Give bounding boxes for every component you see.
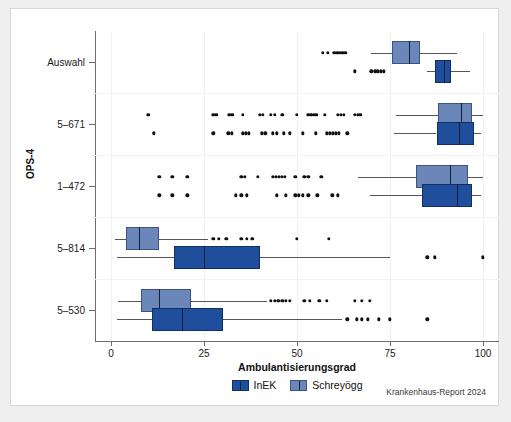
outlier-point bbox=[146, 113, 149, 116]
outlier-point bbox=[315, 113, 318, 116]
credit-text: Krankenhaus-Report 2024 bbox=[386, 387, 486, 397]
box-iqr bbox=[392, 41, 420, 64]
legend-label: Schreyögg bbox=[312, 379, 362, 391]
whisker-low bbox=[370, 195, 422, 196]
outlier-point bbox=[382, 69, 385, 72]
outlier-point bbox=[215, 113, 218, 116]
outlier-point bbox=[366, 317, 369, 320]
outlier-point bbox=[264, 131, 267, 134]
outlier-point bbox=[353, 69, 356, 72]
whisker-high bbox=[260, 257, 390, 258]
whisker-low bbox=[394, 133, 437, 134]
outlier-point bbox=[360, 299, 363, 302]
y-tick bbox=[89, 124, 95, 125]
outlier-point bbox=[303, 299, 306, 302]
outlier-point bbox=[306, 193, 309, 196]
grid-line bbox=[483, 31, 484, 341]
outlier-point bbox=[316, 193, 319, 196]
outlier-point bbox=[301, 193, 304, 196]
outlier-point bbox=[251, 237, 254, 240]
whisker-high bbox=[451, 71, 470, 72]
outlier-point bbox=[295, 113, 298, 116]
outlier-point bbox=[241, 113, 244, 116]
box-iqr bbox=[152, 308, 223, 331]
box-iqr bbox=[437, 122, 474, 145]
legend-swatch-icon bbox=[232, 380, 249, 391]
outlier-point bbox=[318, 299, 321, 302]
outlier-point bbox=[336, 193, 339, 196]
median-line bbox=[139, 227, 140, 250]
outlier-point bbox=[314, 131, 317, 134]
outlier-point bbox=[283, 175, 286, 178]
whisker-high bbox=[420, 53, 457, 54]
outlier-point bbox=[261, 113, 264, 116]
median-line bbox=[204, 246, 205, 269]
x-tick bbox=[297, 341, 298, 346]
outlier-point bbox=[433, 255, 436, 258]
whisker-low bbox=[118, 301, 140, 302]
outlier-point bbox=[368, 299, 371, 302]
median-line bbox=[182, 308, 183, 331]
outlier-point bbox=[280, 113, 283, 116]
legend-label: InEK bbox=[254, 379, 277, 391]
outlier-point bbox=[337, 131, 340, 134]
whisker-high bbox=[468, 177, 483, 178]
whisker-high bbox=[159, 239, 207, 240]
y-tick bbox=[89, 310, 95, 311]
outlier-point bbox=[326, 51, 329, 54]
outlier-point bbox=[231, 113, 234, 116]
y-tick-label-5-814: 5–814 bbox=[57, 243, 85, 254]
outlier-point bbox=[301, 131, 304, 134]
grid-line bbox=[390, 31, 391, 341]
outlier-point bbox=[331, 193, 334, 196]
median-line bbox=[459, 122, 460, 145]
whisker-low bbox=[371, 53, 391, 54]
category-separator bbox=[95, 155, 499, 156]
whisker-low bbox=[427, 71, 434, 72]
category-separator bbox=[95, 93, 499, 94]
outlier-point bbox=[346, 131, 349, 134]
legend-swatch-icon bbox=[290, 380, 307, 391]
outlier-point bbox=[377, 317, 380, 320]
whisker-low bbox=[117, 257, 175, 258]
whisker-high bbox=[223, 319, 342, 320]
y-tick-label-auswahl: Auswahl bbox=[47, 57, 85, 68]
outlier-point bbox=[321, 51, 324, 54]
x-tick bbox=[111, 341, 112, 346]
whisker-high bbox=[472, 195, 481, 196]
outlier-point bbox=[225, 237, 228, 240]
legend-item-schreygg[interactable]: Schreyögg bbox=[290, 379, 362, 391]
x-tick-label: 75 bbox=[384, 348, 395, 359]
category-separator bbox=[95, 279, 499, 280]
whisker-high bbox=[474, 133, 481, 134]
box-iqr bbox=[126, 227, 159, 250]
outlier-point bbox=[245, 237, 248, 240]
outlier-point bbox=[245, 193, 248, 196]
y-tick-label-1-472: 1–472 bbox=[57, 181, 85, 192]
median-line bbox=[444, 60, 445, 83]
outlier-point bbox=[425, 255, 428, 258]
outlier-point bbox=[306, 175, 309, 178]
outlier-point bbox=[217, 237, 220, 240]
outlier-point bbox=[230, 131, 233, 134]
outlier-point bbox=[171, 193, 174, 196]
grid-line bbox=[204, 31, 205, 341]
outlier-point bbox=[243, 175, 246, 178]
grid-line bbox=[297, 31, 298, 341]
y-axis-tick-labels: Auswahl5–6711–4725–8145–530 bbox=[11, 9, 85, 422]
outlier-point bbox=[186, 175, 189, 178]
whisker-low bbox=[396, 115, 439, 116]
grid-line bbox=[111, 31, 112, 341]
outlier-point bbox=[323, 113, 326, 116]
outlier-point bbox=[425, 317, 428, 320]
y-tick bbox=[89, 62, 95, 63]
outlier-point bbox=[158, 175, 161, 178]
y-tick bbox=[89, 186, 95, 187]
outlier-point bbox=[186, 193, 189, 196]
legend-item-inek[interactable]: InEK bbox=[232, 379, 277, 391]
median-line bbox=[409, 41, 410, 64]
outlier-point bbox=[359, 113, 362, 116]
outlier-point bbox=[234, 193, 237, 196]
outlier-point bbox=[360, 317, 363, 320]
whisker-low bbox=[117, 319, 152, 320]
